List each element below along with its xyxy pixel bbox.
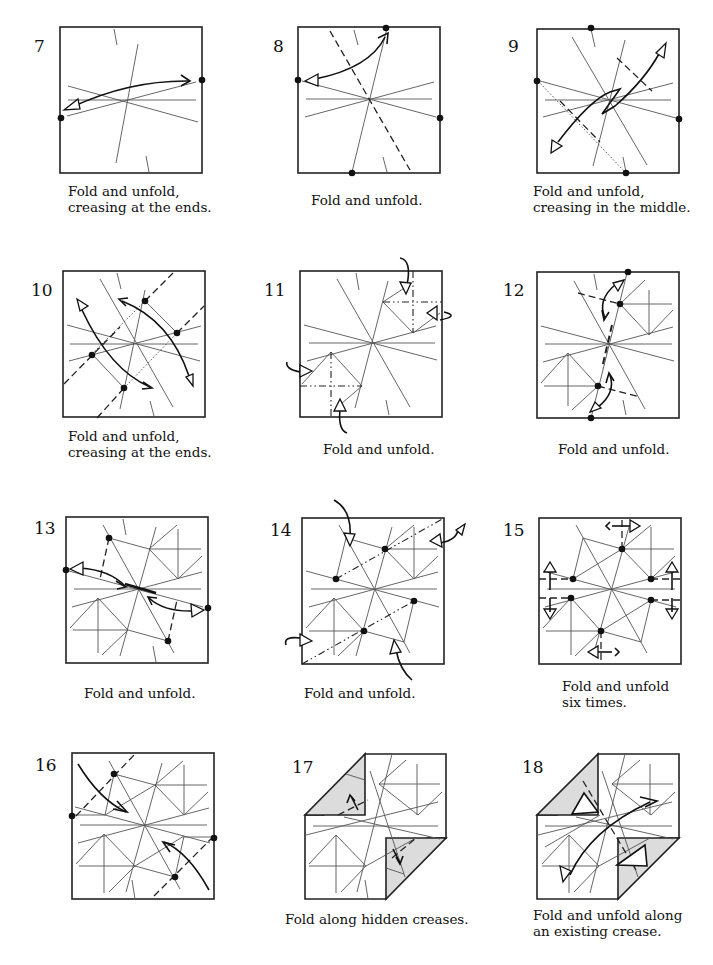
step-number: 18 xyxy=(522,757,544,777)
step-caption-line: Fold and unfold, xyxy=(68,183,179,199)
step-number: 17 xyxy=(292,757,314,777)
step-number: 13 xyxy=(34,518,56,538)
step-caption-line: creasing at the ends. xyxy=(68,199,212,215)
step-18-diagram xyxy=(537,754,679,899)
step-number: 10 xyxy=(31,280,53,300)
step-caption-line: Fold and unfold, xyxy=(533,183,644,199)
step-14-diagram xyxy=(286,500,465,680)
step-15-diagram xyxy=(539,518,681,664)
step-number: 11 xyxy=(264,280,286,300)
step-16-diagram xyxy=(69,753,218,899)
step-11-diagram xyxy=(287,258,451,433)
step-number: 16 xyxy=(35,755,57,775)
step-10-diagram xyxy=(63,271,205,418)
step-12-diagram xyxy=(537,269,679,422)
step-number: 15 xyxy=(503,520,525,540)
diagram-canvas xyxy=(0,0,713,965)
step-caption-line: creasing in the middle. xyxy=(533,199,691,215)
step-caption-line: Fold and unfold. xyxy=(304,685,415,701)
step-number: 12 xyxy=(503,280,525,300)
step-caption-line: Fold and unfold. xyxy=(311,192,422,208)
step-caption-line: Fold and unfold, xyxy=(68,428,179,444)
step-caption-line: Fold and unfold along xyxy=(533,907,682,923)
step-number: 7 xyxy=(34,36,45,56)
step-caption-line: an existing crease. xyxy=(533,923,662,939)
step-caption-line: Fold and unfold xyxy=(562,678,669,694)
step-8-diagram xyxy=(295,25,444,177)
step-caption-line: Fold and unfold. xyxy=(558,441,669,457)
step-13-diagram xyxy=(63,517,212,663)
step-number: 8 xyxy=(273,36,284,56)
step-caption-line: Fold along hidden creases. xyxy=(285,911,469,927)
step-9-diagram xyxy=(534,25,683,177)
step-caption-line: creasing at the ends. xyxy=(68,444,212,460)
step-caption-line: Fold and unfold. xyxy=(323,441,434,457)
step-17-diagram xyxy=(305,754,446,899)
step-7-diagram xyxy=(58,27,206,173)
step-number: 9 xyxy=(508,36,519,56)
step-caption-line: Fold and unfold. xyxy=(84,685,195,701)
step-caption-line: six times. xyxy=(562,694,627,710)
step-number: 14 xyxy=(270,520,292,540)
